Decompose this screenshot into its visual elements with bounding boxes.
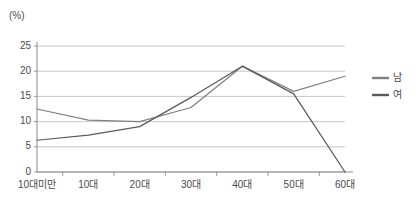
x-axis-tick-label: 60대 xyxy=(335,179,355,190)
x-axis-tick-label: 10대 xyxy=(78,179,98,190)
y-axis-tick-label: 10 xyxy=(20,115,32,126)
series-line-남 xyxy=(37,66,345,121)
axes-group xyxy=(37,42,353,172)
chart-container: (%) 0510152025 10대미만10대20대30대40대50대60대 남… xyxy=(0,0,417,211)
y-axis-tick-label: 15 xyxy=(20,90,32,101)
series-lines-group xyxy=(37,66,345,172)
x-axis-tick-label: 40대 xyxy=(232,179,252,190)
y-axis-tick-label: 20 xyxy=(20,65,32,76)
x-axis-tick-label: 10대미만 xyxy=(18,179,56,190)
chart-legend: 남여 xyxy=(372,72,402,100)
x-axis-tick-label: 30대 xyxy=(181,179,201,190)
x-axis-tick-label: 20대 xyxy=(130,179,150,190)
gridlines-group xyxy=(37,46,345,172)
y-axis-tick-label: 5 xyxy=(25,140,31,151)
line-chart-svg: 0510152025 10대미만10대20대30대40대50대60대 남여 xyxy=(0,0,417,211)
x-axis-ticks-group xyxy=(63,172,320,176)
legend-label-여: 여 xyxy=(393,89,402,100)
legend-label-남: 남 xyxy=(393,72,402,83)
y-axis-tick-label: 25 xyxy=(20,40,32,51)
x-axis-tick-label: 50대 xyxy=(284,179,304,190)
x-axis-labels-group: 10대미만10대20대30대40대50대60대 xyxy=(18,179,355,190)
y-axis-tick-label: 0 xyxy=(25,166,31,177)
y-axis-ticks-group: 0510152025 xyxy=(20,40,37,177)
